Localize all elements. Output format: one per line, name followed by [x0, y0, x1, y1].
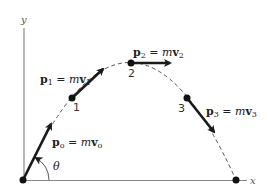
- vector-p1-label: p1 = mv1: [40, 73, 91, 87]
- vector-p3-label: p3 = mv3: [206, 105, 257, 119]
- point-origin: [20, 177, 27, 184]
- point-3: [184, 95, 191, 102]
- y-axis-label: y: [20, 14, 27, 25]
- angle-arc: [36, 158, 49, 180]
- point-end: [233, 177, 240, 184]
- vector-p2-label: p2 = mv2: [133, 46, 184, 60]
- point-1-label: 1: [73, 101, 80, 114]
- point-2: [128, 60, 135, 67]
- theta-label: θ: [53, 160, 60, 173]
- point-3-label: 3: [178, 102, 185, 115]
- vector-p0-arrow: [23, 124, 51, 180]
- projectile-diagram: y x θ 1 2 3 p1 = mv1 p2 = mv2 p3 = mv3 p…: [0, 0, 270, 195]
- x-axis-label: x: [250, 175, 256, 186]
- vector-p0-label: po = mvo: [52, 136, 103, 150]
- point-2-label: 2: [128, 67, 135, 80]
